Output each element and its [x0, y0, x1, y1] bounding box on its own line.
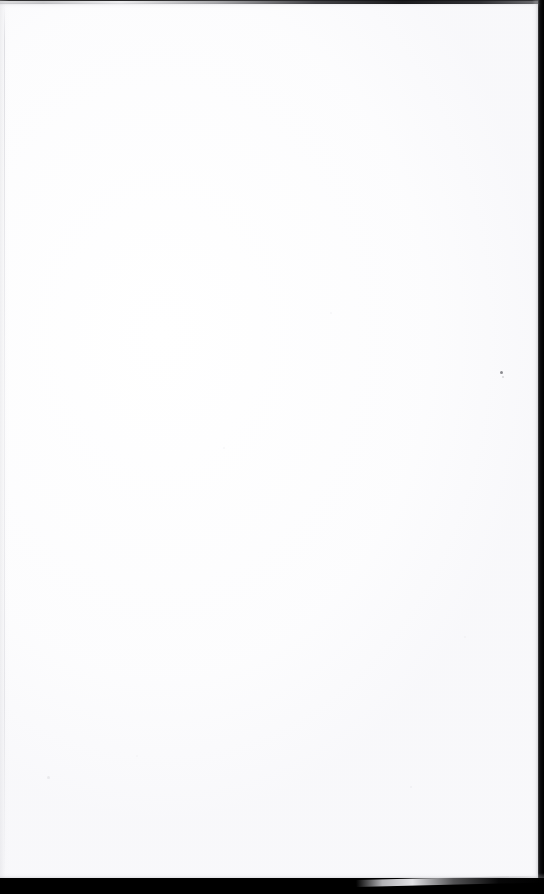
top-scan-edge: [0, 0, 544, 4]
bottom-scan-edge: [0, 878, 544, 894]
left-paper-fold-line: [4, 6, 5, 874]
page-sheet: [0, 1, 538, 880]
page-body-text: [0, 1, 538, 880]
right-scan-edge: [538, 0, 544, 894]
lifted-corner-highlight: [356, 876, 544, 887]
scanned-page-canvas: [0, 0, 544, 894]
